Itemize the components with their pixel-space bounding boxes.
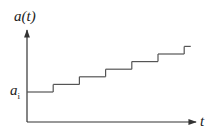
x-axis-label: t [200,113,205,129]
step-function-diagram: a(t) t ai [0,0,218,131]
step-series [27,46,191,92]
y-axis-label: a(t) [14,8,36,25]
y-tick-label-subscript: i [18,91,21,101]
y-tick-label-ai: ai [10,82,21,101]
y-tick-label-base: a [10,82,18,98]
